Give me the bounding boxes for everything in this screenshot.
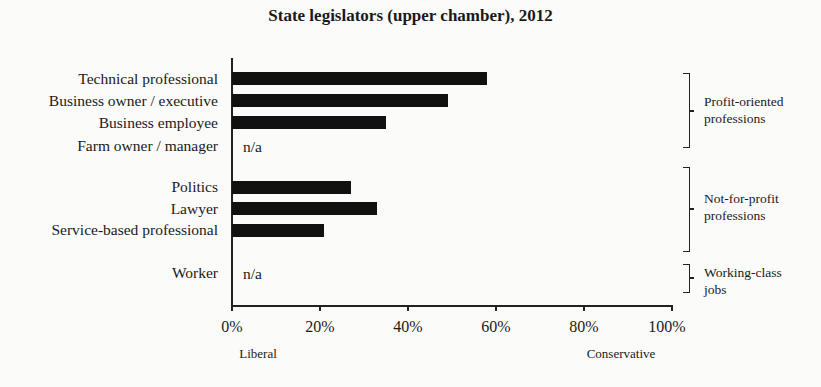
x-tick-0	[231, 305, 233, 311]
category-label-technical-professional: Technical professional	[78, 70, 218, 88]
category-label-service-based-professional: Service-based professional	[51, 221, 218, 239]
group-label-line1: Profit-oriented	[704, 93, 783, 110]
category-label-farm-owner: Farm owner / manager	[77, 137, 218, 155]
x-end-label-conservative: Conservative	[587, 346, 656, 362]
x-tick-20	[319, 305, 321, 311]
group-label-not-for-profit: Not-for-profit professions	[704, 190, 779, 224]
x-tick-label-60: 60%	[481, 318, 510, 336]
bar-lawyer	[232, 202, 377, 215]
bracket-working-class	[683, 264, 690, 293]
x-tick-40	[407, 305, 409, 311]
group-label-line2: professions	[704, 110, 783, 127]
category-label-business-owner: Business owner / executive	[49, 92, 218, 110]
group-label-line1: Not-for-profit	[704, 190, 779, 207]
x-tick-label-20: 20%	[305, 318, 334, 336]
x-tick-100	[671, 305, 673, 311]
bracket-tick-not-for-profit	[689, 208, 694, 210]
bar-business-owner	[232, 94, 448, 107]
bracket-tick-working-class	[689, 277, 694, 279]
group-label-working-class: Working-class jobs	[704, 264, 782, 298]
bracket-not-for-profit	[683, 167, 690, 252]
category-label-lawyer: Lawyer	[171, 200, 218, 218]
x-axis-line	[231, 305, 672, 307]
chart-title: State legislators (upper chamber), 2012	[0, 6, 821, 26]
x-tick-label-100: 100%	[648, 318, 685, 336]
group-label-line1: Working-class	[704, 264, 782, 281]
value-label-farm-owner: n/a	[243, 138, 262, 156]
x-tick-label-0: 0%	[221, 318, 242, 336]
bar-politics	[232, 181, 351, 194]
x-tick-60	[495, 305, 497, 311]
x-end-label-liberal: Liberal	[239, 346, 277, 362]
category-label-worker: Worker	[172, 264, 218, 282]
bar-service-based-professional	[232, 224, 324, 237]
x-tick-80	[583, 305, 585, 311]
category-label-business-employee: Business employee	[99, 114, 218, 132]
bar-technical-professional	[232, 72, 487, 85]
bracket-tick-profit-oriented	[689, 110, 694, 112]
x-tick-label-80: 80%	[569, 318, 598, 336]
group-label-line2: professions	[704, 207, 779, 224]
bar-business-employee	[232, 116, 386, 129]
group-label-line2: jobs	[704, 281, 782, 298]
value-label-worker: n/a	[243, 265, 262, 283]
category-label-politics: Politics	[171, 178, 218, 196]
group-label-profit-oriented: Profit-oriented professions	[704, 93, 783, 127]
x-tick-label-40: 40%	[393, 318, 422, 336]
